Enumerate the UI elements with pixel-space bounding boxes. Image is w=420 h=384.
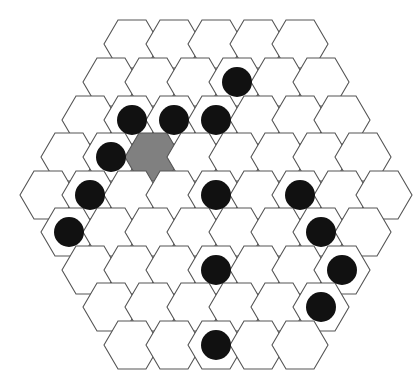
game-piece-black[interactable] <box>117 105 147 135</box>
game-piece-black[interactable] <box>222 67 252 97</box>
game-piece-black[interactable] <box>285 180 315 210</box>
game-piece-black[interactable] <box>159 105 189 135</box>
game-piece-black[interactable] <box>327 255 357 285</box>
game-piece-black[interactable] <box>201 105 231 135</box>
hex-board[interactable] <box>0 0 420 384</box>
game-piece-black[interactable] <box>96 142 126 172</box>
game-piece-black[interactable] <box>201 255 231 285</box>
game-piece-black[interactable] <box>201 330 231 360</box>
game-piece-black[interactable] <box>306 292 336 322</box>
game-piece-black[interactable] <box>54 217 84 247</box>
game-piece-black[interactable] <box>75 180 105 210</box>
hex-board-container <box>0 0 420 384</box>
game-piece-black[interactable] <box>306 217 336 247</box>
game-piece-black[interactable] <box>201 180 231 210</box>
